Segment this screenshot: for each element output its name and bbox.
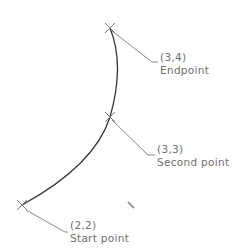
start-point-label: Start point [70, 232, 129, 244]
arc-curve [22, 28, 118, 205]
endpoint-marker-icon [105, 23, 115, 33]
start-point-leader [26, 210, 68, 232]
start-point-marker-icon [17, 200, 27, 210]
start-point-coord: (2,2) [70, 219, 96, 231]
arc-diagram: (3,4) Endpoint (3,3) Second point (2,2) … [0, 0, 242, 249]
endpoint-leader [112, 31, 158, 62]
second-point-label: Second point [157, 156, 229, 168]
second-point-marker-icon [105, 112, 115, 122]
cursor-mark-icon [128, 202, 134, 208]
second-point-leader [112, 120, 155, 155]
second-point-coord: (3,3) [157, 143, 183, 155]
endpoint-label: Endpoint [160, 64, 209, 76]
endpoint-coord: (3,4) [160, 51, 186, 63]
